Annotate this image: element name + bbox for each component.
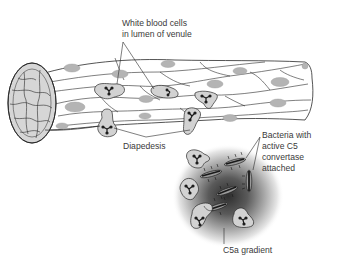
venule-cross-section: [8, 63, 56, 143]
label-bacteria: Bacteria with active C5 convertase attac…: [262, 130, 311, 174]
label-white-blood-cells: White blood cells in lumen of venule: [122, 18, 192, 40]
label-c5a-gradient: C5a gradient: [223, 245, 272, 256]
label-bacteria-line-4: attached: [262, 163, 311, 174]
label-bacteria-line-1: Bacteria with: [262, 130, 311, 141]
label-diapedesis-text: Diapedesis: [123, 141, 166, 152]
label-wbc-line-1: White blood cells: [122, 18, 192, 29]
label-bacteria-line-3: convertase: [262, 152, 311, 163]
label-bacteria-line-2: active C5: [262, 141, 311, 152]
label-wbc-line-2: in lumen of venule: [122, 29, 192, 40]
label-diapedesis: Diapedesis: [123, 141, 166, 152]
label-c5a-gradient-text: C5a gradient: [223, 245, 272, 256]
